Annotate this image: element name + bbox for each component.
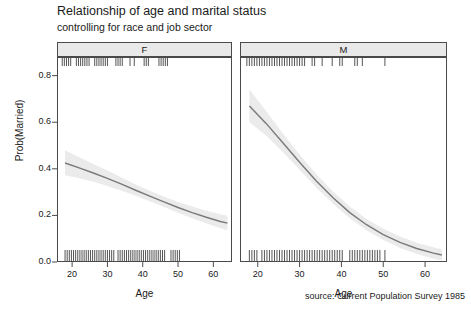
chart-figure: Relationship of age and marital status c… [0, 0, 471, 312]
x-tick-label: 40 [329, 269, 353, 279]
x-tick-label: 60 [413, 269, 437, 279]
x-tick-label: 60 [201, 269, 225, 279]
panel-strip-m: M [240, 42, 447, 57]
panel-strip-f-label: F [142, 44, 148, 55]
y-tick-marks [51, 0, 57, 312]
rug-marks-top [247, 58, 385, 66]
x-tick-marks [57, 262, 232, 268]
chart-title: Relationship of age and marital status [57, 4, 266, 18]
panel-strip-f: F [57, 42, 232, 57]
x-axis-label-f: Age [57, 288, 232, 299]
panel-m [240, 57, 447, 262]
confidence-band [65, 150, 227, 230]
y-axis-ticks: 0.00.20.40.60.8 [19, 0, 51, 312]
panel-plot-area [58, 58, 231, 261]
x-tick-label: 50 [371, 269, 395, 279]
x-axis-ticks-m: 2030405060 [240, 262, 447, 288]
x-tick-label: 20 [60, 269, 84, 279]
panel-f [57, 57, 232, 262]
rug-marks-bottom [249, 250, 385, 261]
rug-marks-top [62, 58, 167, 66]
panel-strip-m-label: M [340, 44, 348, 55]
x-tick-label: 40 [131, 269, 155, 279]
x-tick-label: 20 [246, 269, 270, 279]
x-tick-marks [240, 262, 447, 268]
y-tick-label: 0.6 [21, 117, 51, 126]
rug-marks-bottom [65, 250, 179, 261]
chart-subtitle: controlling for race and job sector [57, 21, 212, 33]
confidence-band [249, 90, 441, 261]
source-note: source: Current Population Survey 1985 [305, 291, 465, 301]
x-tick-label: 30 [288, 269, 312, 279]
y-tick-label: 0.2 [21, 210, 51, 219]
x-axis-ticks-f: 2030405060 [57, 262, 232, 288]
x-tick-label: 50 [166, 269, 190, 279]
y-tick-label: 0.8 [21, 71, 51, 80]
y-tick-label: 0.0 [21, 257, 51, 266]
x-tick-label: 30 [95, 269, 119, 279]
panel-plot-area [241, 58, 446, 261]
y-tick-label: 0.4 [21, 164, 51, 173]
